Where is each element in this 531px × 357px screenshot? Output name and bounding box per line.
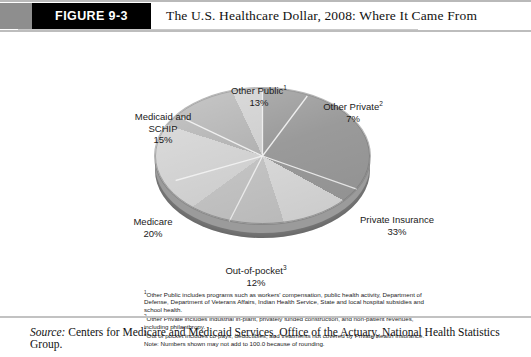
pie-label-medicare: Medicare 20%: [100, 216, 206, 239]
pie-label-other-private-text: Other Private: [323, 101, 379, 112]
pie-label-out-of-pocket-superscript: 3: [283, 264, 287, 271]
footnote-1: 1Other Public includes programs such as …: [144, 289, 434, 313]
figure-title: The U.S. Healthcare Dollar, 2008: Where …: [166, 3, 477, 29]
pie-label-private-insurance: Private Insurance 33%: [338, 214, 456, 237]
figure-number-label: FIGURE 9-3: [32, 3, 151, 29]
pie-label-other-public-text: Other Public: [231, 85, 283, 96]
pie-label-out-of-pocket-text: Out-of-pocket: [225, 265, 283, 276]
pie-label-out-of-pocket-value: 12%: [246, 277, 265, 288]
pie-label-medicare-text: Medicare: [133, 216, 172, 227]
source-rule: [0, 316, 531, 318]
figure-page: FIGURE 9-3 The U.S. Healthcare Dollar, 2…: [0, 0, 531, 357]
source-line: Source: Centers for Medicare and Medicai…: [30, 326, 510, 350]
pie-label-other-public-superscript: 1: [283, 84, 287, 91]
pie-label-other-public-value: 13%: [249, 97, 268, 108]
header-rule-bottom: [0, 30, 531, 32]
pie-label-private-insurance-text: Private Insurance: [360, 214, 434, 225]
pie-label-medicare-value: 20%: [143, 228, 162, 239]
chart-area: Other Public1 13% Other Private2 7% Priv…: [0, 34, 531, 316]
pie-label-out-of-pocket: Out-of-pocket3 12%: [196, 262, 316, 288]
pie-label-medicaid-schip-text: Medicaid and: [135, 111, 192, 122]
figure-header: FIGURE 9-3 The U.S. Healthcare Dollar, 2…: [0, 0, 531, 34]
pie-label-other-private: Other Private2 7%: [305, 98, 401, 124]
pie-label-other-public: Other Public1 13%: [199, 82, 319, 108]
pie-label-private-insurance-value: 33%: [387, 226, 406, 237]
header-rule-top: [0, 0, 531, 2]
pie-label-other-private-superscript: 2: [379, 100, 383, 107]
source-label: Source:: [30, 326, 65, 338]
header-gray-block: [0, 3, 32, 29]
source-text: Centers for Medicare and Medicaid Servic…: [30, 326, 500, 350]
pie-label-other-private-value: 7%: [346, 113, 360, 124]
pie-label-medicaid-schip-text2: SCHIP: [148, 123, 177, 134]
pie-label-medicaid-schip: Medicaid and SCHIP 15%: [108, 111, 218, 146]
pie-label-medicaid-schip-value: 15%: [153, 134, 172, 145]
